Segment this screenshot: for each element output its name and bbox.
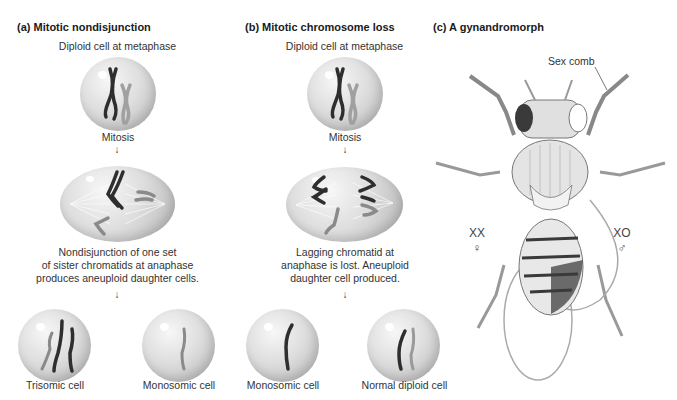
male-symbol-icon: ♂ [611,241,633,255]
gynandromorph-fly-icon [0,0,677,400]
male-genotype-label: XO [611,226,633,240]
female-genotype-label: XX [466,226,488,240]
female-symbol-icon: ♀ [466,241,488,255]
